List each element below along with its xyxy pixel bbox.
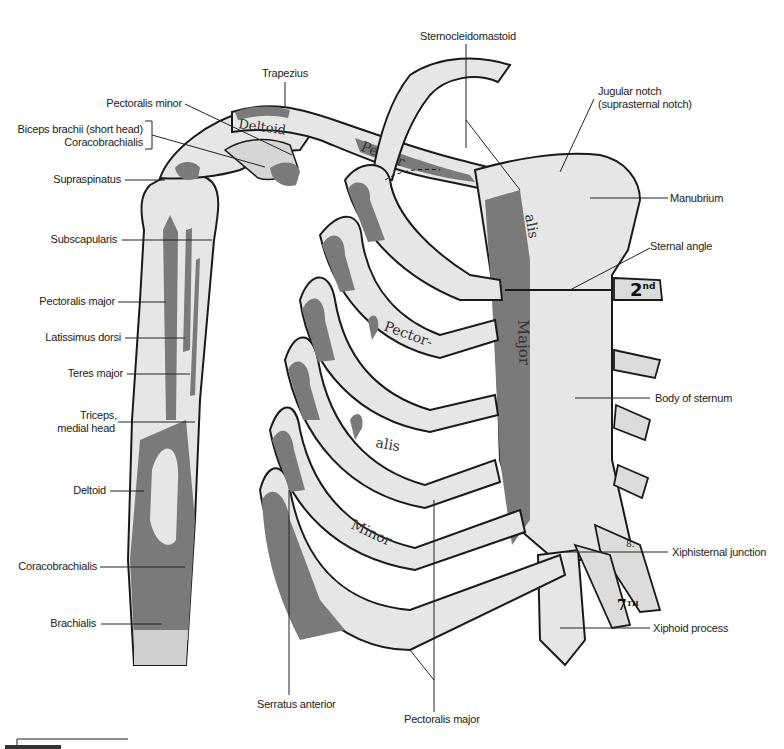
humerus xyxy=(128,174,218,665)
label-coracobrachialis-lower: Coracobrachialis xyxy=(0,560,97,573)
label-deltoid: Deltoid xyxy=(0,484,106,497)
label-trapezius: Trapezius xyxy=(250,67,320,80)
rib-8-label: 8. xyxy=(626,539,635,549)
label-pectoralis-minor: Pectoralis minor xyxy=(60,97,182,110)
label-triceps: Triceps, xyxy=(0,409,117,422)
label-latissimus-dorsi: Latissimus dorsi xyxy=(0,331,121,344)
label-teres-major: Teres major xyxy=(0,367,123,380)
label-manubrium: Manubrium xyxy=(670,192,723,205)
label-triceps-medial-head: medial head xyxy=(0,422,115,435)
label-xiphoid-process: Xiphoid process xyxy=(653,622,728,635)
label-subscapularis: Subscapularis xyxy=(0,233,117,246)
label-pectoralis-major-bottom: Pectoralis major xyxy=(404,713,480,726)
label-suprasternal-notch: (suprasternal notch) xyxy=(598,98,692,111)
label-brachialis: Brachialis xyxy=(0,617,96,630)
rib-7th-label: 7TH xyxy=(617,597,639,613)
label-serratus-anterior: Serratus anterior xyxy=(257,698,336,711)
major-script: Major xyxy=(514,320,534,367)
label-pectoralis-major-arm: Pectoralis major xyxy=(0,295,115,308)
alis-rib-script: alis xyxy=(374,434,401,454)
label-jugular-notch: Jugular notch xyxy=(598,85,661,98)
label-coracobrachialis-upper: Coracobrachialis xyxy=(0,136,143,149)
label-supraspinatus: Supraspinatus xyxy=(0,173,121,186)
label-biceps-brachii: Biceps brachii (short head) xyxy=(0,123,143,136)
label-sternal-angle: Sternal angle xyxy=(650,240,712,253)
scale-bar xyxy=(5,745,61,749)
label-sternocleidomastoid: Sternocleidomastoid xyxy=(420,30,515,43)
label-xiphisternal-junction: Xiphisternal junction xyxy=(672,546,766,559)
label-body-of-sternum: Body of sternum xyxy=(655,392,732,405)
